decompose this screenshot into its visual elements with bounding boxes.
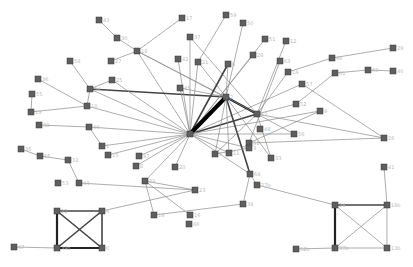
graph-node[interactable]: 38 [240,201,253,207]
node-square[interactable] [186,221,192,227]
graph-node[interactable]: 59 [223,12,236,18]
node-square[interactable] [99,143,105,149]
graph-node[interactable]: 54 [87,86,100,92]
node-square[interactable] [240,20,246,26]
graph-node[interactable]: 49 [86,124,99,130]
graph-node[interactable]: 42 [175,56,188,62]
node-square[interactable] [225,61,231,67]
graph-node[interactable]: 9 [317,108,327,114]
graph-node[interactable]: 16 [187,212,200,218]
node-square[interactable] [254,182,260,188]
node-square[interactable] [54,208,60,214]
node-square[interactable] [187,212,193,218]
node-square[interactable] [246,145,252,151]
node-square[interactable] [332,70,338,76]
graph-node[interactable]: 53 [55,180,68,186]
graph-node[interactable]: 65 [37,153,50,159]
node-square[interactable] [187,131,193,137]
node-square[interactable] [114,35,120,41]
graph-node[interactable]: 17 [179,15,192,21]
graph-node[interactable]: 40 [390,68,403,74]
node-square[interactable] [28,109,34,115]
graph-node[interactable]: 13 [28,109,41,115]
node-square[interactable] [384,202,390,208]
node-square[interactable] [133,163,139,169]
node-square[interactable] [67,58,73,64]
graph-node[interactable]: 23 [192,187,205,193]
graph-node[interactable]: 56 [291,131,304,137]
graph-node[interactable]: 8 [133,163,143,169]
graph-node[interactable]: 41 [381,164,394,170]
graph-node[interactable]: 34 [142,178,155,184]
node-square[interactable] [35,76,41,82]
graph-node[interactable]: 66 [186,221,199,227]
node-square[interactable] [142,178,148,184]
graph-node[interactable]: 4 [99,208,109,214]
node-square[interactable] [187,34,193,40]
node-square[interactable] [329,55,335,61]
graph-node[interactable]: 43 [96,17,109,23]
node-square[interactable] [390,45,396,51]
graph-node[interactable]: 28 [250,52,263,58]
graph-node[interactable]: 18b [384,202,401,208]
node-square[interactable] [293,101,299,107]
graph-node[interactable]: 27 [108,58,121,64]
graph-node[interactable]: 14 [285,69,298,75]
graph-node[interactable]: 21 [195,59,208,65]
graph-node[interactable]: 12 [283,38,296,44]
node-square[interactable] [29,91,35,97]
node-square[interactable] [285,69,291,75]
graph-node[interactable]: 3 [246,145,256,151]
graph-node[interactable]: 0 [99,245,109,251]
node-square[interactable] [332,245,338,251]
node-square[interactable] [268,155,274,161]
node-square[interactable] [381,164,387,170]
node-square[interactable] [192,187,198,193]
node-square[interactable] [134,48,140,54]
node-square[interactable] [240,201,246,207]
node-square[interactable] [250,52,256,58]
node-square[interactable] [384,245,390,251]
graph-node[interactable]: 39b [54,245,71,251]
node-square[interactable] [37,153,43,159]
node-square[interactable] [11,244,17,250]
graph-node[interactable]: 18 [134,48,147,54]
node-square[interactable] [87,86,93,92]
node-square[interactable] [223,12,229,18]
graph-node[interactable]: 47 [136,153,149,159]
node-square[interactable] [299,81,305,87]
graph-node[interactable]: 62 [254,111,267,117]
graph-node[interactable]: 25 [109,77,122,83]
node-square[interactable] [65,157,71,163]
graph-node[interactable]: 57 [299,81,312,87]
graph-node[interactable]: 36 [35,76,48,82]
graph-node[interactable]: 46 [329,55,342,61]
graph-node[interactable]: 6 [225,61,235,67]
graph-node[interactable]: 7 [212,151,222,157]
node-square[interactable] [381,135,387,141]
graph-node[interactable]: 33 [268,155,281,161]
node-square[interactable] [136,153,142,159]
node-square[interactable] [108,58,114,64]
node-square[interactable] [151,212,157,218]
graph-node[interactable]: 51 [262,36,275,42]
node-square[interactable] [277,58,283,64]
node-square[interactable] [84,103,90,109]
node-square[interactable] [283,38,289,44]
graph-node[interactable]: 11 [226,150,239,156]
node-square[interactable] [36,122,42,128]
node-square[interactable] [99,245,105,251]
graph-node[interactable]: 29 [390,45,403,51]
graph-node[interactable]: 24 [332,202,345,208]
graph-node[interactable]: 64 [247,171,260,177]
graph-node[interactable]: 13b [384,245,401,251]
graph-node[interactable]: 39 [36,122,49,128]
graph-node[interactable]: 15 [105,152,118,158]
node-square[interactable] [365,67,371,73]
graph-node[interactable]: 37b [332,245,349,251]
node-square[interactable] [212,151,218,157]
node-square[interactable] [390,68,396,74]
graph-node[interactable]: 48 [257,126,270,132]
node-square[interactable] [96,17,102,23]
node-square[interactable] [195,59,201,65]
